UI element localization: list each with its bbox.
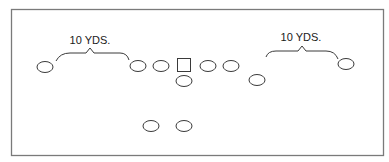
left-guard-oval xyxy=(153,61,169,72)
left-wide-receiver-oval xyxy=(37,62,53,73)
right-guard-oval xyxy=(200,61,216,72)
left-back-oval xyxy=(143,121,159,132)
left-tackle-oval xyxy=(130,61,146,72)
slot-back-oval xyxy=(249,75,265,86)
left-distance-label: 10 YDS. xyxy=(70,34,111,46)
formation-diagram: 10 YDS. 10 YDS. xyxy=(0,0,389,162)
center-square xyxy=(178,59,191,72)
right-tackle-oval xyxy=(223,61,239,72)
diagram-frame xyxy=(12,10,384,156)
right-distance-label: 10 YDS. xyxy=(281,31,322,43)
quarterback-oval xyxy=(176,76,192,87)
right-back-oval xyxy=(176,121,192,132)
right-wide-receiver-oval xyxy=(338,59,354,70)
